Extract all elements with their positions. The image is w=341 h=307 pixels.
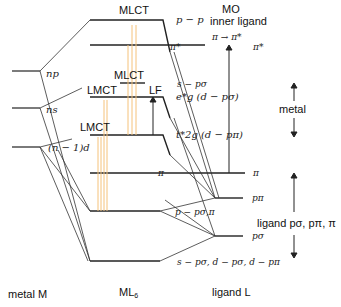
label-mlct-top: MLCT (119, 4, 149, 16)
label-np: np (46, 68, 59, 79)
label-mo-pi-star: π* (169, 42, 181, 52)
label-inner-ligand: inner ligand (210, 15, 267, 27)
column-complex: ML6 (119, 286, 138, 299)
metal-levels (12, 71, 40, 147)
label-pi-pi-star: π → π* (211, 32, 242, 42)
label-p-sigma: pσ (252, 231, 265, 241)
complex-levels (90, 20, 245, 261)
label-lmct-lower: LMCT (80, 121, 110, 133)
label-p-psigma-pi: p − pσ,π (175, 207, 216, 217)
label-lf: LF (149, 84, 162, 96)
pi-pi-star-arrow (226, 45, 232, 173)
label-p-p: p − p (176, 14, 204, 25)
label-lmct-upper: LMCT (87, 84, 117, 96)
label-mo: MO (222, 3, 240, 15)
label-s-psigma: s − pσ (177, 79, 208, 89)
label-ligand-pi-star: π* (252, 42, 264, 52)
column-metal: metal M (8, 288, 47, 300)
mo-diagram: np ns (n − 1)d MLCT MLCT LMCT LMCT LF p … (0, 0, 341, 307)
correlation-lines (40, 20, 219, 261)
transition-arrows (98, 25, 136, 211)
label-ligand-region: ligand pσ, pπ, π (257, 217, 336, 229)
label-ligand-pi: π (252, 168, 260, 178)
lf-arrow (150, 97, 156, 135)
label-eg: e*g (d − pσ) (176, 91, 239, 102)
label-p-pi: pπ (252, 193, 265, 203)
label-metal-region: metal (279, 103, 306, 115)
label-ns: ns (46, 104, 58, 115)
label-nd: (n − 1)d (48, 142, 90, 153)
column-ligand: ligand L (212, 286, 251, 298)
label-mlct-mid: MLCT (114, 69, 144, 81)
label-bottom: s − pσ, d − pσ, d − pπ (177, 257, 281, 267)
label-mo-pi: π (157, 168, 165, 178)
ligand-region-arrow (291, 173, 297, 258)
label-t2g: t*2g (d − pπ) (176, 129, 243, 140)
